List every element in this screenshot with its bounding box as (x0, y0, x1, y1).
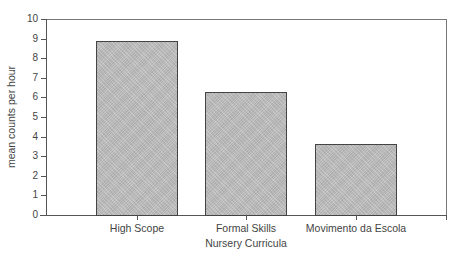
y-tick-mark (41, 137, 47, 138)
y-tick-label: 4 (24, 132, 38, 142)
bar-high-scope (96, 41, 178, 216)
y-tick-mark (41, 195, 47, 196)
y-tick-mark (41, 97, 47, 98)
y-tick-mark (41, 176, 47, 177)
y-tick-label: 6 (24, 92, 38, 102)
y-axis-title: mean counts per hour (5, 66, 17, 168)
y-tick-label: 3 (24, 151, 38, 161)
y-tick-mark (41, 58, 47, 59)
y-tick-mark (41, 78, 47, 79)
y-tick-label: 10 (24, 14, 38, 24)
y-tick-mark (41, 39, 47, 40)
y-tick-mark (41, 156, 47, 157)
x-category-label: High Scope (110, 222, 164, 234)
x-category-label: Movimento da Escola (306, 222, 406, 234)
y-tick-mark (41, 117, 47, 118)
bar-formal-skills (205, 92, 287, 216)
x-tick-mark (246, 215, 247, 220)
y-tick-label: 9 (24, 34, 38, 44)
y-tick-label: 8 (24, 53, 38, 63)
bar-movimento-da-escola (315, 144, 397, 216)
y-tick-label: 7 (24, 73, 38, 83)
y-tick-label: 1 (24, 190, 38, 200)
y-tick-mark (41, 215, 47, 216)
y-tick-mark (41, 19, 47, 20)
y-tick-label: 5 (24, 112, 38, 122)
y-tick-label: 2 (24, 171, 38, 181)
x-category-label: Formal Skills (216, 222, 276, 234)
x-tick-mark (356, 215, 357, 220)
x-tick-mark (137, 215, 138, 220)
x-tick-mark (446, 215, 447, 220)
x-axis-title: Nursery Curricula (205, 237, 287, 249)
y-tick-label: 0 (24, 210, 38, 220)
